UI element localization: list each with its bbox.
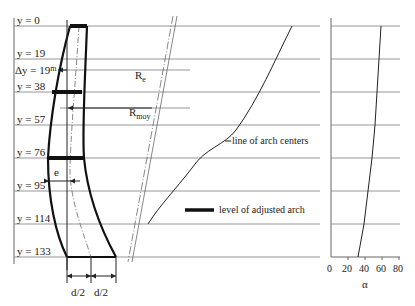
radius-extrados-label: Re [135,69,146,84]
level-label-0: y = 0 [17,14,40,26]
eccentricity-label: e [54,166,59,178]
r-moy-arrow [68,106,152,111]
alpha-axis-label: α [362,278,368,290]
radius-lines [128,16,177,262]
thickness-dimension: d/2 d/2 [67,257,116,298]
level-label-76: y = 76 [17,146,46,158]
level-label-38: y = 38 [17,80,46,92]
level-label-19: y = 19 [17,47,46,59]
alpha-curve [358,26,381,257]
level-label-114: y = 114 [17,212,51,224]
alpha-tick-80: 80 [393,263,403,274]
level-label-133: y = 133 [17,245,51,257]
legend: level of adjusted arch [185,204,305,215]
level-label-57: y = 57 [17,113,46,125]
delta-y-label: Δy = 19m [15,64,57,76]
alpha-panel: 0 20 40 60 80 α [327,18,403,290]
alpha-tick-20: 20 [342,263,352,274]
half-thickness-left: d/2 [71,286,85,298]
legend-label: level of adjusted arch [219,204,305,215]
level-label-95: y = 95 [17,179,46,191]
alpha-tick-60: 60 [376,263,386,274]
alpha-tick-40: 40 [359,263,369,274]
dam-section [48,20,116,270]
arch-dam-diagram: y = 0 y = 19 y = 38 y = 57 y = 76 y = 95… [0,0,415,306]
arch-centers-label: line of arch centers [232,135,308,146]
half-thickness-right: d/2 [94,286,108,298]
level-labels: y = 0 y = 19 y = 38 y = 57 y = 76 y = 95… [17,14,51,257]
alpha-tick-0: 0 [327,263,332,274]
